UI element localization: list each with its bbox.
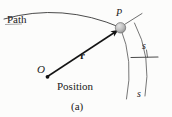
tangent-tick bbox=[125, 14, 143, 25]
arc-length-lower-label: s bbox=[137, 89, 141, 99]
origin-dot bbox=[46, 75, 50, 79]
origin-label: O bbox=[37, 64, 45, 75]
figure-caption: (a) bbox=[71, 101, 83, 112]
arc-inner bbox=[121, 28, 130, 99]
arc-cross-tick bbox=[131, 57, 158, 58]
arc-outer bbox=[135, 23, 148, 96]
particle-marker bbox=[115, 23, 125, 33]
point-p-label: P bbox=[116, 8, 122, 18]
arc-cross-tick-vertical bbox=[147, 50, 148, 57]
position-vector-figure: Path Position O P r s s (a) bbox=[0, 0, 172, 117]
path-label: Path bbox=[7, 14, 27, 25]
arc-length-upper-label: s bbox=[142, 41, 146, 51]
position-label: Position bbox=[57, 81, 93, 92]
vector-r-label: r bbox=[80, 50, 85, 61]
